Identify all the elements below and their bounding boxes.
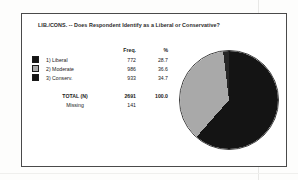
pie-chart-slices xyxy=(180,51,278,149)
missing-freq: 141 xyxy=(108,100,142,109)
legend-swatch-moderate xyxy=(32,65,39,72)
frequency-table: Freq. % 1) Liberal 772 28.7 xyxy=(30,45,174,109)
total-swatch-spacer xyxy=(30,91,46,100)
header-category xyxy=(46,45,108,55)
total-pct: 100.0 xyxy=(142,91,168,100)
row-label-moderate: 2) Moderate xyxy=(46,64,108,73)
page-title: LIB./CONS. -- Does Respondent Identify a… xyxy=(38,22,220,28)
spss-output-box: LIB./CONS. -- Does Respondent Identify a… xyxy=(21,13,287,167)
legend-swatch-cell xyxy=(30,55,46,64)
row-pct-moderate: 36.6 xyxy=(142,64,168,73)
legend-swatch-conservative xyxy=(32,74,39,81)
row-freq-liberal: 772 xyxy=(108,55,142,64)
row-pct-liberal: 28.7 xyxy=(142,55,168,64)
legend-swatch-cell xyxy=(30,73,46,82)
table-total-row: TOTAL (N) 2691 100.0 xyxy=(30,91,168,100)
table-row: 2) Moderate 986 36.6 xyxy=(30,64,168,73)
legend-swatch-liberal xyxy=(32,56,39,63)
table-row: 3) Conserv. 933 34.7 xyxy=(30,73,168,82)
total-label: TOTAL (N) xyxy=(46,91,108,100)
header-pct: % xyxy=(142,45,168,55)
missing-label: Missing xyxy=(46,100,108,109)
spacer-cell xyxy=(30,82,168,91)
table-header-row: Freq. % xyxy=(30,45,168,55)
table-spacer-row xyxy=(30,82,168,91)
scanned-page: LIB./CONS. -- Does Respondent Identify a… xyxy=(0,0,298,180)
table-row: 1) Liberal 772 28.7 xyxy=(30,55,168,64)
table-missing-row: Missing 141 xyxy=(30,100,168,109)
total-freq: 2691 xyxy=(108,91,142,100)
frequency-table-grid: Freq. % 1) Liberal 772 28.7 xyxy=(30,45,168,109)
header-freq: Freq. xyxy=(108,45,142,55)
row-label-liberal: 1) Liberal xyxy=(46,55,108,64)
missing-swatch-spacer xyxy=(30,100,46,109)
scan-artifact-line xyxy=(0,173,298,174)
pie-chart xyxy=(173,44,281,160)
missing-pct xyxy=(142,100,168,109)
legend-swatch-cell xyxy=(30,64,46,73)
pie-chart-circle xyxy=(179,50,279,150)
row-label-conservative: 3) Conserv. xyxy=(46,73,108,82)
row-freq-moderate: 986 xyxy=(108,64,142,73)
row-freq-conservative: 933 xyxy=(108,73,142,82)
header-swatch-spacer xyxy=(30,45,46,55)
row-pct-conservative: 34.7 xyxy=(142,73,168,82)
